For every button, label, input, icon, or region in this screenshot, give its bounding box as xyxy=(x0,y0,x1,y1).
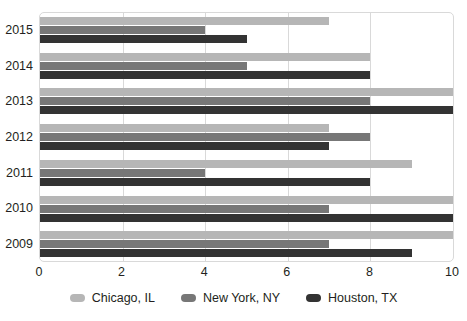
x-axis-label: 6 xyxy=(272,266,302,279)
x-axis-label: 4 xyxy=(189,266,219,279)
bar-group xyxy=(40,49,453,85)
chart-legend: Chicago, ILNew York, NYHouston, TX xyxy=(0,292,467,305)
bar xyxy=(40,71,370,79)
bar xyxy=(40,178,370,186)
x-axis-label: 10 xyxy=(437,266,467,279)
bar-group xyxy=(40,227,453,262)
y-axis-label: 2011 xyxy=(0,167,33,180)
bar-group xyxy=(40,84,453,120)
legend-item[interactable]: Houston, TX xyxy=(306,292,397,305)
bar-group xyxy=(40,156,453,192)
bar xyxy=(40,106,453,114)
bar xyxy=(40,97,370,105)
y-axis-label: 2015 xyxy=(0,24,33,37)
bar-chart: 2015201420132012201120102009 0246810 Chi… xyxy=(0,0,467,321)
y-axis-label: 2014 xyxy=(0,60,33,73)
x-axis-label: 8 xyxy=(354,266,384,279)
y-axis-label: 2013 xyxy=(0,95,33,108)
legend-swatch-icon xyxy=(70,294,85,302)
bar xyxy=(40,214,453,222)
bar xyxy=(40,35,247,43)
legend-swatch-icon xyxy=(181,294,196,302)
x-axis-label: 2 xyxy=(107,266,137,279)
y-axis-label: 2009 xyxy=(0,238,33,251)
bar xyxy=(40,17,329,25)
legend-label: Chicago, IL xyxy=(92,292,155,305)
bar xyxy=(40,196,453,204)
bar-group xyxy=(40,13,453,49)
plot-area xyxy=(39,12,454,262)
legend-swatch-icon xyxy=(306,294,321,302)
bar xyxy=(40,88,453,96)
bar xyxy=(40,53,370,61)
legend-label: Houston, TX xyxy=(328,292,397,305)
bar xyxy=(40,133,370,141)
legend-item[interactable]: New York, NY xyxy=(181,292,280,305)
bar xyxy=(40,160,412,168)
x-axis-label: 0 xyxy=(24,266,54,279)
bar xyxy=(40,142,329,150)
y-axis-label: 2012 xyxy=(0,131,33,144)
bar xyxy=(40,231,453,239)
bar-group xyxy=(40,120,453,156)
legend-item[interactable]: Chicago, IL xyxy=(70,292,155,305)
bar-group xyxy=(40,192,453,228)
bar xyxy=(40,205,329,213)
bar xyxy=(40,249,412,257)
bar xyxy=(40,26,205,34)
bar xyxy=(40,62,247,70)
bar xyxy=(40,240,329,248)
legend-label: New York, NY xyxy=(203,292,280,305)
bar xyxy=(40,169,205,177)
bar xyxy=(40,124,329,132)
y-axis-label: 2010 xyxy=(0,202,33,215)
